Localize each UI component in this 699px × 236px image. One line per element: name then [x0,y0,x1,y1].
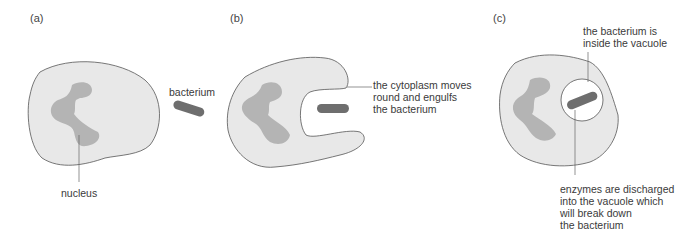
nucleus-label: nucleus [61,187,97,199]
panel-c-cell [500,55,619,166]
bacterium-a [172,99,205,117]
panel-label-a: (a) [30,12,43,24]
panel-a-cell [28,62,159,166]
bacterium-label: bacterium [169,86,215,98]
panel-label-b: (b) [230,12,243,24]
bacterium-b [317,104,349,113]
vacuole-label: the bacterium is inside the vacuole [583,25,667,49]
enzymes-label: enzymes are discharged into the vacuole … [560,183,674,231]
cytoplasm-label: the cytoplasm moves round and engulfs th… [373,79,472,115]
panel-label-c: (c) [493,12,506,24]
